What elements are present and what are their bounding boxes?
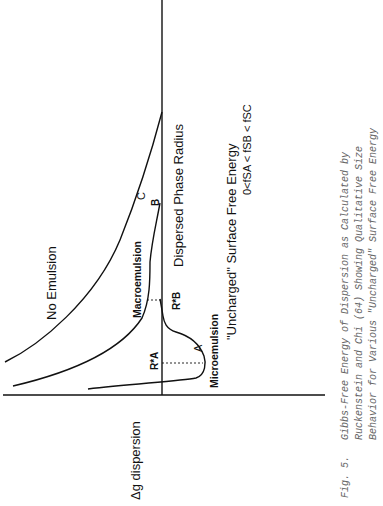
no-emulsion-label: No Emulsion: [44, 246, 59, 320]
curve-a: [88, 299, 205, 389]
curve-c: [5, 112, 162, 362]
y-axis-label: Δg dispersion: [128, 421, 143, 500]
figure: No Emulsion Macroemulsion Microemulsion …: [0, 0, 383, 506]
caption-line-1: Gibbs-Free Energy of Dispersion as Calcu…: [340, 151, 351, 440]
caption-line-3: Behavior for Various "Uncharged" Surface…: [368, 127, 379, 440]
curve-b-label: B: [150, 199, 161, 206]
caption-line-2: Ruckenstein and Chi (64) Showing Qualita…: [354, 146, 365, 440]
microemulsion-label: Microemulsion: [208, 314, 220, 388]
legend-relation: 0<fSA < fSB < fSC: [241, 104, 253, 195]
macroemulsion-label: Macroemulsion: [131, 241, 143, 318]
chart-svg: No Emulsion Macroemulsion Microemulsion …: [0, 0, 383, 506]
x-axis-label: Dispersed Phase Radius: [171, 123, 186, 267]
curve-c-label: C: [135, 192, 147, 200]
legend-title: "Uncharged" Surface Free Energy: [224, 143, 239, 340]
ra-label: R*A: [149, 352, 160, 370]
curve-a-label: A: [192, 344, 204, 352]
rb-label: R*B: [171, 292, 182, 310]
caption-number: Fig. 5.: [340, 456, 351, 498]
